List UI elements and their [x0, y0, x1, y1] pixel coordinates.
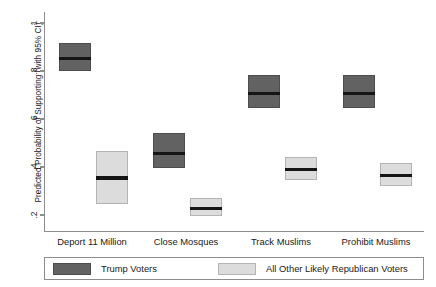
median-line: [380, 174, 412, 177]
y-tick-label: .2: [28, 209, 40, 221]
median-line: [59, 57, 91, 60]
chart-legend: Trump VotersAll Other Likely Republican …: [44, 257, 424, 280]
median-line: [96, 176, 128, 179]
ci-box: [285, 157, 317, 180]
legend-label: All Other Likely Republican Voters: [266, 263, 408, 274]
median-line: [248, 92, 280, 95]
legend-entry-1[interactable]: All Other Likely Republican Voters: [218, 258, 408, 279]
median-line: [190, 207, 222, 210]
ci-box: [153, 133, 185, 168]
ci-box: [59, 43, 91, 71]
median-line: [153, 152, 185, 155]
ci-box: [96, 151, 128, 205]
median-line: [285, 168, 317, 171]
legend-entry-0[interactable]: Trump Voters: [53, 258, 157, 279]
ci-box: [343, 75, 375, 108]
chart-figure: Predicted Probability of Supporting (wit…: [0, 0, 436, 287]
y-tick-label: .6: [28, 113, 40, 125]
plot-area: [44, 12, 424, 232]
plot-inner: [45, 12, 424, 231]
x-axis-label-3: Prohibit Muslims: [316, 236, 436, 247]
legend-swatch: [218, 263, 256, 275]
y-tick-label: .4: [28, 161, 40, 173]
ci-box: [380, 163, 412, 187]
median-line: [343, 92, 375, 95]
legend-label: Trump Voters: [101, 263, 157, 274]
y-tick-label: 1: [28, 17, 40, 29]
y-tick-label: .8: [28, 65, 40, 77]
legend-swatch: [53, 263, 91, 275]
ci-box: [190, 198, 222, 216]
ci-box: [248, 75, 280, 108]
